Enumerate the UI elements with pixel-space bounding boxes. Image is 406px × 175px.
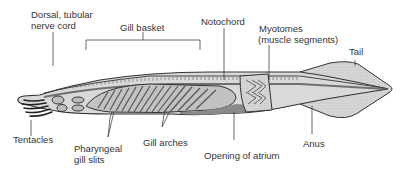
label-nerve-cord-line2: nerve cord: [31, 20, 76, 31]
label-notochord: Notochord: [201, 16, 245, 27]
label-gill-arches: Gill arches: [143, 137, 188, 148]
label-pharyngeal-line2: gill slits: [74, 154, 105, 165]
label-tentacles: Tentacles: [13, 134, 53, 145]
label-gill-basket: Gill basket: [120, 22, 164, 33]
myotomes: [240, 74, 272, 112]
label-anus: Anus: [303, 138, 325, 149]
label-pharyngeal-line1: Pharyngeal: [74, 143, 122, 154]
label-tail: Tail: [349, 46, 363, 57]
label-nerve-cord-line1: Dorsal, tubular: [31, 9, 93, 20]
label-opening-of-atrium: Opening of atrium: [204, 150, 280, 161]
label-myotomes-line1: Myotomes: [259, 23, 303, 34]
label-myotomes-line2: (muscle segments): [258, 34, 338, 45]
